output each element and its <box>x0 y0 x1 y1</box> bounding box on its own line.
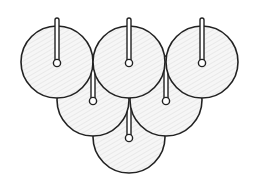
knob-icon <box>198 59 205 66</box>
knob-icon <box>125 59 132 66</box>
stem-icon <box>200 18 204 62</box>
knob-icon <box>53 59 60 66</box>
stem-icon <box>127 18 131 62</box>
knob-icon <box>125 134 132 141</box>
knob-icon <box>89 97 96 104</box>
disc-top-center <box>93 18 165 98</box>
stem-icon <box>55 18 59 62</box>
disc-top-right <box>166 18 238 98</box>
disc-pyramid-diagram <box>0 0 266 196</box>
disc-top-left <box>21 18 93 98</box>
knob-icon <box>162 97 169 104</box>
